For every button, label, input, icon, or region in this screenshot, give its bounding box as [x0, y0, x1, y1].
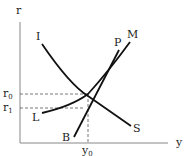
is-start-label: I [36, 30, 40, 43]
horizontal-axis-label: y [175, 136, 183, 149]
y0-subscript: 0 [88, 150, 92, 156]
r1-label: r1 [3, 101, 13, 115]
y0-label: y0 [81, 144, 93, 156]
is-end-label: S [133, 122, 141, 135]
bp-end-label: P [114, 36, 122, 49]
is-lm-bp-diagram: r y I S L M B P r0 r1 y0 [0, 0, 190, 156]
r0-subscript: 0 [8, 93, 12, 101]
lm-start-label: L [32, 111, 40, 124]
r1-subscript: 1 [8, 107, 12, 115]
bp-line [74, 50, 119, 137]
bp-start-label: B [62, 131, 70, 144]
lm-end-label: M [127, 28, 138, 41]
vertical-axis-label: r [16, 4, 22, 17]
r0-label: r0 [3, 87, 13, 101]
